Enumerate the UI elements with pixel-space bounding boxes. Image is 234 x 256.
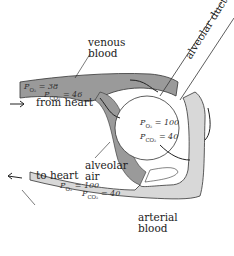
flow-arrows <box>8 101 24 179</box>
venous-pco2: PCO₂ = 46 <box>44 90 82 101</box>
arterial-blood-label: arterial blood <box>138 212 178 234</box>
arterial-pco2: PCO₂ = 40 <box>82 189 120 200</box>
alveolus-pco2: PCO₂ = 40 <box>140 132 178 143</box>
to-heart-label: to heart <box>36 170 78 181</box>
arterial-inner <box>145 168 178 182</box>
alveolus-po2: PO₂ = 100 <box>140 118 179 129</box>
venous-blood-label: venous blood <box>88 37 125 59</box>
alveolar-air-label: alveolar air <box>85 160 128 182</box>
